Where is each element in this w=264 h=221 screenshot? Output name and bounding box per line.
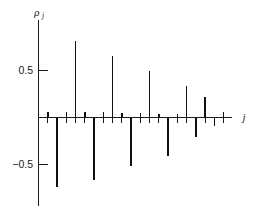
y-axis-title-subscript: j: [41, 11, 44, 20]
y-tick-label-upper: 0.5: [18, 64, 33, 76]
y-tick-label-lower: −0.5: [12, 158, 33, 170]
y-axis-title: ρ j: [33, 6, 44, 20]
x-axis-ticks: [48, 118, 224, 124]
acf-stems: [48, 41, 224, 187]
acf-figure: 0.5 −0.5 ρ j j: [0, 0, 264, 221]
x-axis-title: j: [240, 111, 245, 123]
acf-plot-svg: 0.5 −0.5 ρ j j: [0, 0, 264, 221]
y-axis-title-rho: ρ: [33, 6, 39, 18]
